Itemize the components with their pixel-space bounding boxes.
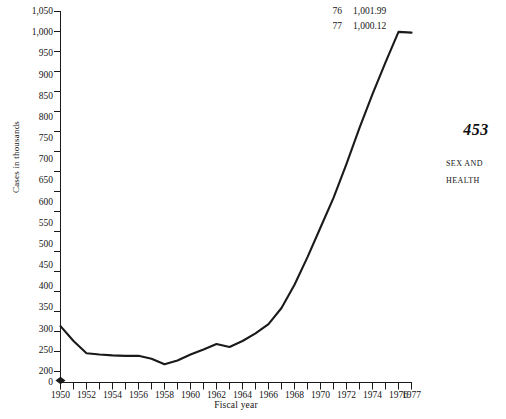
figure-page: 0200250300350400450500550600650700750800… xyxy=(0,0,506,419)
running-head-line: HEALTH xyxy=(446,172,506,189)
annotation-year: 76 xyxy=(322,4,342,19)
y-axis-title: Cases in thousands xyxy=(11,97,21,217)
page-furniture: 453 SEX ANDHEALTH xyxy=(446,0,506,419)
endpoint-annotation-row: 771,000.12 xyxy=(322,19,386,34)
annotation-value: 1,001.99 xyxy=(342,4,386,19)
x-axis-tick-labels: 1950195219541956195819601962196419661968… xyxy=(0,0,440,419)
x-axis-title: Fiscal year xyxy=(60,400,412,410)
page-number: 453 xyxy=(446,121,506,139)
endpoint-annotations: 761,001.99771,000.12 xyxy=(322,4,386,34)
line-chart: 0200250300350400450500550600650700750800… xyxy=(0,0,440,419)
endpoint-annotation-row: 761,001.99 xyxy=(322,4,386,19)
annotation-value: 1,000.12 xyxy=(342,19,386,34)
running-head: SEX ANDHEALTH xyxy=(446,155,506,189)
annotation-year: 77 xyxy=(322,19,342,34)
running-head-line: SEX AND xyxy=(446,155,506,172)
